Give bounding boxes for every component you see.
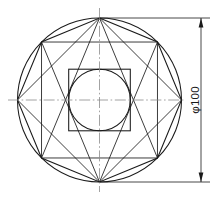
technical-drawing-canvas: φ100 — [0, 0, 218, 200]
arrowhead-top-icon — [199, 18, 204, 28]
star-chord-bottom-to-upper-left — [42, 42, 100, 182]
star-chord-top-to-lower-left — [42, 18, 100, 158]
dimension-label-diameter: φ100 — [189, 86, 201, 113]
arrowhead-bottom-icon — [199, 173, 204, 183]
star-chord-bottom-to-upper-right — [100, 42, 158, 182]
star-chord-top-to-lower-right — [100, 18, 158, 158]
drawing-svg: φ100 — [0, 0, 218, 200]
